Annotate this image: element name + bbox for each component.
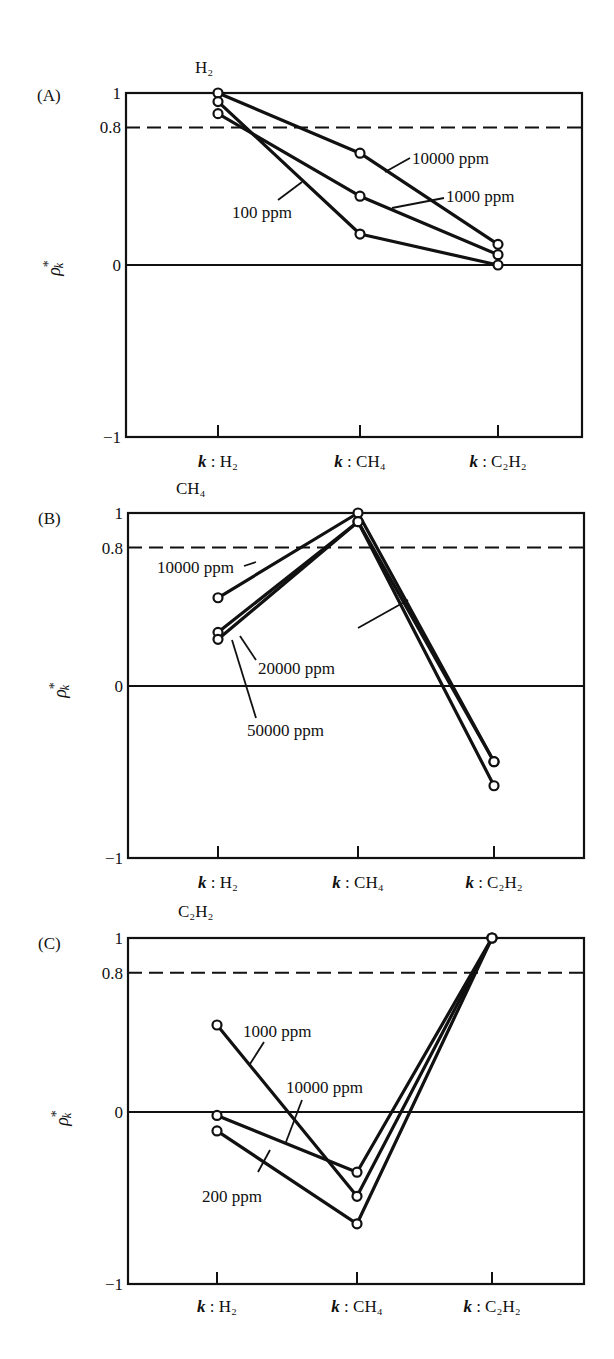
data-point-marker xyxy=(494,250,503,259)
data-point-marker xyxy=(356,192,365,201)
y-tick-label: 1 xyxy=(115,929,124,948)
y-tick-label: 0.8 xyxy=(100,118,121,137)
series-line xyxy=(218,522,494,786)
y-tick-label: −1 xyxy=(105,1275,123,1294)
series-annotation: 200 ppm xyxy=(202,1187,262,1206)
data-point-marker xyxy=(214,635,223,644)
chart-panel-a: 10.80−1k : H₂k : CH₄k : C₂H₂(A)H₂ρ*k1000… xyxy=(37,58,582,471)
annotation-pointer xyxy=(244,562,256,566)
y-tick-label: −1 xyxy=(103,428,121,447)
data-point-marker xyxy=(354,517,363,526)
x-tick-label: k : CH₄ xyxy=(332,873,383,892)
chart-panel-b: 10.80−1k : H₂k : CH₄k : C₂H₂(B)CH₄ρ*k100… xyxy=(38,479,584,892)
y-tick-label: 1 xyxy=(115,504,124,523)
data-point-marker xyxy=(214,109,223,118)
x-tick-label: k : H₂ xyxy=(197,1297,237,1316)
y-axis-label: ρ*k xyxy=(41,260,66,277)
series-annotation: 10000 ppm xyxy=(286,1078,363,1097)
series-annotation: 1000 ppm xyxy=(446,187,514,206)
y-tick-label: 0.8 xyxy=(102,539,123,558)
x-tick-label: k : CH₄ xyxy=(334,452,385,471)
annotation-pointer xyxy=(358,600,408,628)
y-tick-label: −1 xyxy=(105,849,123,868)
y-tick-label: 0 xyxy=(113,256,122,275)
series-annotation: 10000 ppm xyxy=(412,149,489,168)
data-point-marker xyxy=(356,149,365,158)
panel-title: CH₄ xyxy=(176,479,206,498)
series-annotation: 100 ppm xyxy=(232,203,292,222)
data-point-marker xyxy=(490,757,499,766)
chart-svg: 10.80−1k : H₂k : CH₄k : C₂H₂(A)H₂ρ*k1000… xyxy=(0,0,614,1359)
data-point-marker xyxy=(353,1219,362,1228)
data-point-marker xyxy=(213,1021,222,1030)
panel-label: (C) xyxy=(38,934,61,953)
annotation-pointer xyxy=(286,1100,302,1142)
y-axis-label: ρ*k xyxy=(47,682,72,699)
panel-label: (B) xyxy=(38,509,61,528)
data-point-marker xyxy=(494,261,503,270)
series-line xyxy=(218,102,498,265)
panel-title: C₂H₂ xyxy=(178,902,213,921)
y-axis-label: ρ*k xyxy=(49,1110,74,1127)
series-annotation: 1000 ppm xyxy=(243,1022,311,1041)
x-tick-label: k : C₂H₂ xyxy=(469,452,526,471)
x-tick-label: k : H₂ xyxy=(198,452,238,471)
annotation-pointer xyxy=(250,1042,264,1064)
panel-label: (A) xyxy=(37,86,61,105)
data-point-marker xyxy=(353,1192,362,1201)
data-point-marker xyxy=(353,1168,362,1177)
x-tick-label: k : CH₄ xyxy=(331,1297,382,1316)
series-100-ppm xyxy=(214,97,503,269)
annotation-pointer xyxy=(232,640,256,718)
data-point-marker xyxy=(490,781,499,790)
chart-panel-c: 10.80−1k : H₂k : CH₄k : C₂H₂(C)C₂H₂ρ*k10… xyxy=(38,902,584,1316)
y-tick-label: 0 xyxy=(115,1103,124,1122)
series-annotation: 10000 ppm xyxy=(157,558,234,577)
data-point-marker xyxy=(213,1111,222,1120)
series-annotation: 50000 ppm xyxy=(247,721,324,740)
data-point-marker xyxy=(356,230,365,239)
data-point-marker xyxy=(213,1126,222,1135)
annotation-pointer xyxy=(385,158,410,172)
y-tick-label: 0.8 xyxy=(102,964,123,983)
annotation-pointer xyxy=(240,636,256,660)
annotation-pointer xyxy=(278,182,302,200)
x-tick-label: k : H₂ xyxy=(198,873,238,892)
series-annotation: 20000 ppm xyxy=(258,659,335,678)
data-point-marker xyxy=(488,934,497,943)
data-point-marker xyxy=(494,240,503,249)
panel-title: H₂ xyxy=(195,58,213,77)
data-point-marker xyxy=(214,97,223,106)
figure: 10.80−1k : H₂k : CH₄k : C₂H₂(A)H₂ρ*k1000… xyxy=(0,0,614,1359)
series-10000-ppm xyxy=(214,89,503,249)
y-tick-label: 0 xyxy=(115,677,124,696)
data-point-marker xyxy=(214,593,223,602)
series-50000-ppm xyxy=(214,517,499,790)
y-tick-label: 1 xyxy=(113,84,122,103)
x-tick-label: k : C₂H₂ xyxy=(463,1297,520,1316)
x-tick-label: k : C₂H₂ xyxy=(465,873,522,892)
